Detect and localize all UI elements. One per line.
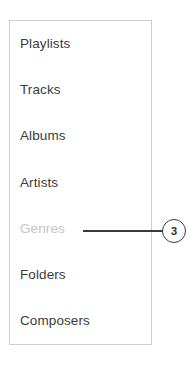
menu-item-label: Playlists: [20, 37, 70, 51]
menu-item-folders[interactable]: Folders: [10, 252, 151, 298]
menu-item-label: Composers: [20, 314, 90, 328]
callout-badge-number: 3: [171, 226, 177, 237]
menu-item-label: Artists: [20, 176, 58, 190]
callout-badge-3: 3: [162, 219, 186, 243]
library-navigation-menu: Playlists Tracks Albums Artists Genres F…: [9, 20, 152, 345]
menu-item-label: Genres: [20, 222, 65, 236]
menu-item-composers[interactable]: Composers: [10, 298, 151, 344]
menu-item-tracks[interactable]: Tracks: [10, 67, 151, 113]
menu-item-artists[interactable]: Artists: [10, 160, 151, 206]
menu-item-label: Folders: [20, 268, 66, 282]
menu-item-label: Tracks: [20, 83, 61, 97]
menu-item-genres[interactable]: Genres: [10, 206, 151, 252]
menu-item-label: Albums: [20, 129, 66, 143]
menu-item-playlists[interactable]: Playlists: [10, 21, 151, 67]
screenshot-stage: Playlists Tracks Albums Artists Genres F…: [0, 0, 189, 368]
menu-item-albums[interactable]: Albums: [10, 113, 151, 159]
callout-leader-line: [83, 230, 164, 232]
